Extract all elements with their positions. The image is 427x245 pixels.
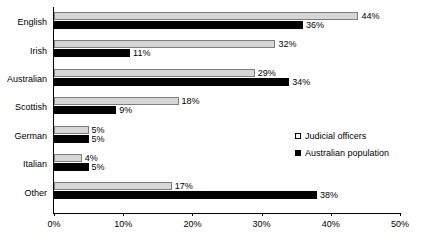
legend-item-judicial-officers: Judicial officers (295, 130, 389, 142)
x-axis-tick (192, 213, 193, 216)
ancestry-bar-chart: English44%36%Irish32%11%Australian29%34%… (0, 0, 427, 245)
x-axis-line (53, 213, 401, 214)
legend-label-judicial-officers: Judicial officers (305, 131, 366, 141)
legend-item-australian-population: Australian population (295, 147, 389, 159)
category-label-australian: Australian (7, 74, 47, 84)
bar-value-label: 9% (119, 105, 132, 115)
bar-irish-judicial-officers: 32% (54, 40, 275, 48)
bar-value-label: 36% (306, 20, 324, 30)
bar-value-label: 38% (320, 190, 338, 200)
category-row: Irish32%11% (54, 36, 400, 64)
bar-italian-judicial-officers: 4% (54, 154, 82, 162)
bar-english-judicial-officers: 44% (54, 12, 358, 20)
category-label-german: German (14, 131, 47, 141)
bar-other-australian-population: 38% (54, 191, 317, 199)
bar-value-label: 5% (92, 162, 105, 172)
bar-australian-judicial-officers: 29% (54, 69, 255, 77)
bar-australian-australian-population: 34% (54, 78, 289, 86)
bar-value-label: 29% (258, 68, 276, 78)
plot-area: English44%36%Irish32%11%Australian29%34%… (54, 8, 400, 213)
bar-value-label: 32% (278, 39, 296, 49)
category-label-english: English (17, 17, 47, 27)
bar-value-label: 34% (292, 77, 310, 87)
x-axis-tick (262, 213, 263, 216)
x-axis-tick-label: 20% (183, 219, 201, 229)
x-axis-tick-label: 40% (322, 219, 340, 229)
bar-english-australian-population: 36% (54, 21, 303, 29)
bar-value-label: 17% (175, 181, 193, 191)
x-axis-tick-label: 0% (47, 219, 60, 229)
x-axis-tick (331, 213, 332, 216)
bar-value-label: 5% (92, 134, 105, 144)
x-axis-tick-label: 50% (391, 219, 409, 229)
x-axis-tick (123, 213, 124, 216)
bar-scottish-australian-population: 9% (54, 106, 116, 114)
bar-value-label: 44% (361, 11, 379, 21)
chart-legend: Judicial officers Australian population (295, 130, 389, 164)
x-axis-tick (400, 213, 401, 216)
bar-scottish-judicial-officers: 18% (54, 97, 179, 105)
legend-label-australian-population: Australian population (305, 148, 389, 158)
category-label-irish: Irish (30, 46, 47, 56)
bar-german-australian-population: 5% (54, 135, 89, 143)
bar-german-judicial-officers: 5% (54, 126, 89, 134)
x-axis-tick (54, 213, 55, 216)
category-row: English44%36% (54, 8, 400, 36)
x-axis-tick-label: 30% (253, 219, 271, 229)
category-label-other: Other (24, 188, 47, 198)
category-label-italian: Italian (23, 159, 47, 169)
bar-other-judicial-officers: 17% (54, 182, 172, 190)
category-row: Australian29%34% (54, 65, 400, 93)
bar-value-label: 18% (182, 96, 200, 106)
category-label-scottish: Scottish (15, 102, 47, 112)
category-row: Other17%38% (54, 178, 400, 206)
bar-italian-australian-population: 5% (54, 163, 89, 171)
category-row: Scottish18%9% (54, 93, 400, 121)
legend-swatch-australian-population (295, 150, 301, 156)
bar-irish-australian-population: 11% (54, 49, 130, 57)
bar-value-label: 11% (133, 48, 150, 58)
legend-swatch-judicial-officers (295, 133, 301, 139)
x-axis-tick-label: 10% (114, 219, 132, 229)
